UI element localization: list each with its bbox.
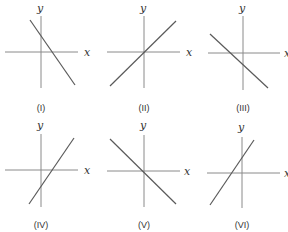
x-axis-label: x <box>284 167 288 180</box>
panel-label: (II) <box>139 103 150 113</box>
x-axis-label: x <box>186 46 193 59</box>
panel-2: y x (II) <box>107 2 193 113</box>
graph-line <box>210 34 268 88</box>
x-axis-label: x <box>84 164 91 177</box>
y-axis-label: y <box>238 2 246 15</box>
graph-line <box>29 138 74 204</box>
panel-4: y x (IV) <box>5 119 91 230</box>
x-axis-label: x <box>184 165 191 178</box>
panel-label: (III) <box>236 103 250 113</box>
y-axis-label: y <box>36 119 44 132</box>
y-axis-label: y <box>36 2 44 15</box>
line-graphs-figure: y x (I) y x (II) y x (III) y x (IV) y x … <box>0 0 288 232</box>
y-axis-label: y <box>139 2 147 15</box>
panel-1: y x (I) <box>5 2 91 113</box>
y-axis-label: y <box>237 121 245 134</box>
y-axis-label: y <box>139 119 147 132</box>
graph-line <box>110 21 176 86</box>
panel-label: (I) <box>37 103 46 113</box>
panel-3: y x (III) <box>208 2 288 113</box>
x-axis-label: x <box>284 47 288 60</box>
panel-6: y x (VI) <box>207 121 288 230</box>
x-axis-label: x <box>84 46 91 59</box>
panel-label: (V) <box>138 220 150 230</box>
panel-label: (IV) <box>34 220 49 230</box>
panel-label: (VI) <box>235 220 250 230</box>
panel-5: y x (V) <box>107 119 191 230</box>
